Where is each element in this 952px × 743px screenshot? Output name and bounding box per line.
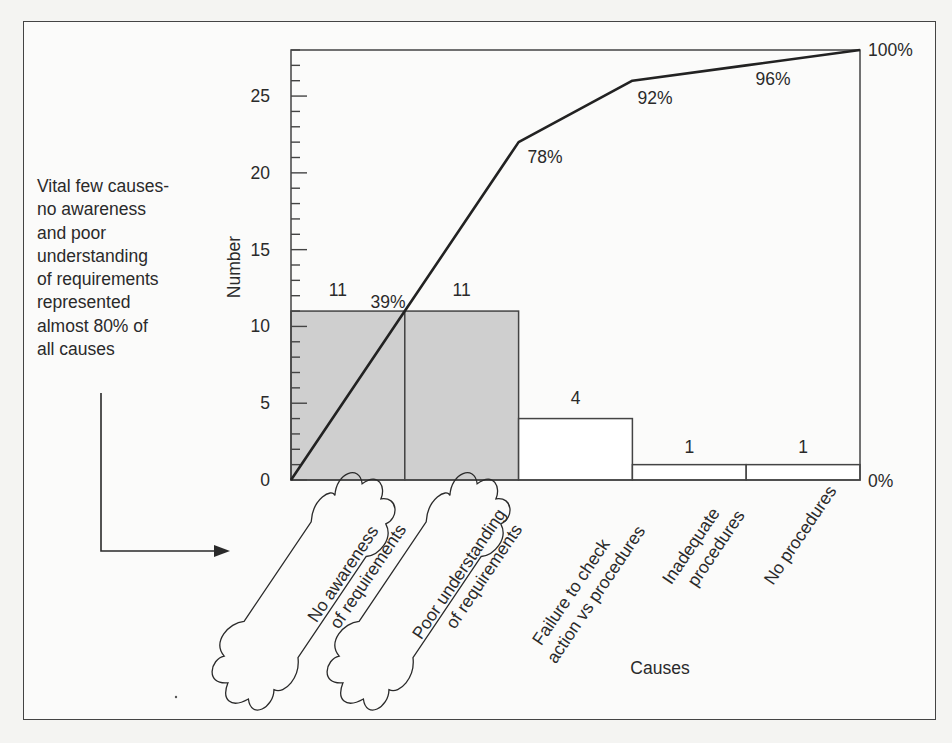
arrow-annotation: [101, 393, 230, 557]
category-label: No awarenessof requirements: [303, 508, 410, 638]
y-tick-label: 10: [251, 316, 271, 336]
right-axis-bottom-label: 0%: [868, 471, 893, 491]
cumulative-label: 39%: [370, 292, 405, 312]
bar-value-label: 4: [571, 388, 581, 408]
cumulative-label: 92%: [637, 88, 672, 108]
y-tick-label: 25: [251, 86, 270, 106]
bar: [519, 419, 633, 480]
arrow-head-icon: [214, 545, 230, 557]
bar: [632, 465, 746, 480]
category-label-line: No procedures: [760, 482, 841, 589]
cumulative-label: 78%: [527, 147, 562, 167]
pareto-chart: 0510152025 1111411 39%78%92%96% 100% 0% …: [0, 0, 952, 743]
cumulative-label: 96%: [755, 69, 790, 89]
bar: [405, 311, 519, 480]
y-tick-label: 5: [260, 393, 270, 413]
right-axis-top-label: 100%: [868, 40, 913, 60]
bar-value-label: 11: [329, 280, 347, 300]
bar-value-label: 1: [798, 437, 808, 457]
bar-value-label: 11: [453, 280, 471, 300]
category-label: Failure to checkaction vs procedures: [524, 509, 649, 667]
y-tick-label: 15: [251, 240, 270, 260]
bar-value-label: 1: [684, 437, 694, 457]
category-label: No procedures: [760, 482, 841, 589]
category-label: Poor understandingof requirements: [408, 505, 528, 655]
y-axis-title: Number: [224, 236, 244, 298]
y-tick-label: 20: [251, 163, 271, 183]
category-label: Inadequateprocedures: [658, 494, 749, 600]
cumulative-labels: 39%78%92%96%: [370, 69, 790, 312]
bar: [746, 465, 860, 480]
y-tick-label: 0: [260, 470, 270, 490]
x-axis-category-labels: No awarenessof requirementsPoor understa…: [303, 482, 840, 667]
x-axis-title: Causes: [630, 658, 690, 678]
